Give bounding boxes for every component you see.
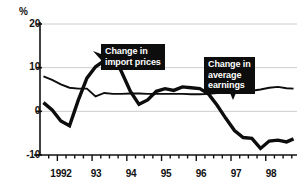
y-axis-tick-label-20: 20	[14, 18, 40, 29]
y-axis-tick-label-0: 0	[14, 105, 40, 116]
x-axis-tick-label-97: 97	[221, 168, 251, 179]
y-axis-tick-label-minus-10: -10	[10, 149, 40, 160]
chart-container: % 20 10 0 -10 1992 93 94 95 96 97 98 Cha…	[0, 0, 305, 185]
annotation-import-prices: Change in import prices	[101, 44, 165, 70]
annotation-pointer-import-prices	[93, 51, 101, 60]
x-axis-tick-label-94: 94	[116, 168, 146, 179]
line-chart-plot	[0, 0, 305, 185]
x-axis-tick-label-1992: 1992	[43, 168, 79, 179]
annotation-pointer-average-earnings	[230, 93, 236, 100]
x-axis-tick-label-93: 93	[81, 168, 111, 179]
x-axis-tick-label-95: 95	[151, 168, 181, 179]
series-line-import-prices	[43, 55, 293, 149]
y-axis-tick-label-10: 10	[14, 61, 40, 72]
annotation-average-earnings: Change in average earnings	[204, 57, 255, 94]
x-axis-tick-label-98: 98	[256, 168, 286, 179]
y-axis-unit-label: %	[19, 6, 28, 17]
x-axis-tick-label-96: 96	[186, 168, 216, 179]
